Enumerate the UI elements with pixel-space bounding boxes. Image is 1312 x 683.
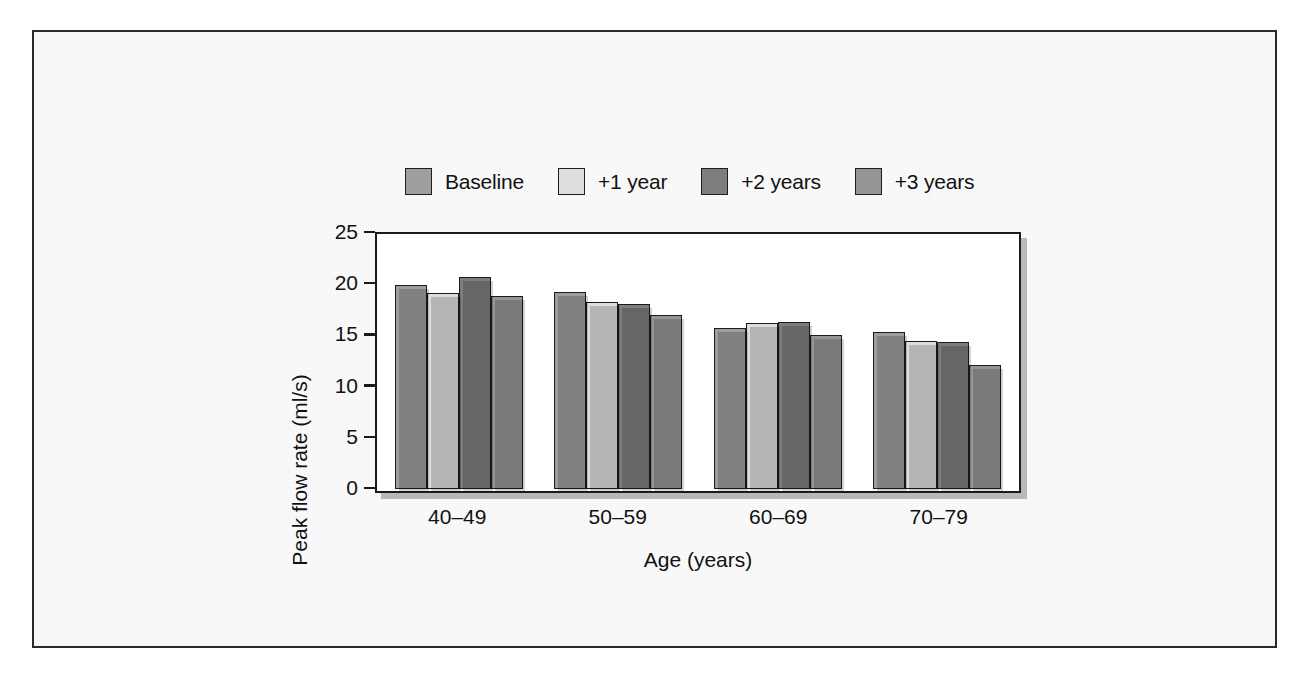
y-axis-tick-label: 0 <box>346 476 358 500</box>
y-axis-tick-label: 20 <box>335 271 358 295</box>
legend-item[interactable]: Baseline <box>405 168 524 195</box>
bar[interactable] <box>427 293 459 489</box>
plot-area <box>375 232 1021 493</box>
legend-swatch-icon <box>405 168 432 195</box>
y-axis-ticks: 0510152025 <box>313 222 375 503</box>
bar[interactable] <box>714 328 746 489</box>
y-axis-tick-mark <box>364 384 375 386</box>
x-axis-tick-labels: 40–4950–5960–6970–79 <box>377 505 1019 529</box>
bar[interactable] <box>618 304 650 488</box>
bar-wrap <box>969 237 1001 489</box>
y-axis-tick-label: 10 <box>335 374 358 398</box>
bars-layer <box>380 237 1017 489</box>
legend-swatch-icon <box>701 168 728 195</box>
y-axis-tick-mark <box>364 436 375 438</box>
x-axis-tick-label: 70–79 <box>910 505 968 529</box>
bar-wrap <box>650 237 682 489</box>
y-axis-tick-mark <box>364 487 375 489</box>
legend-label: Baseline <box>445 170 524 194</box>
bar-wrap <box>778 237 810 489</box>
bar-wrap <box>459 237 491 489</box>
bar[interactable] <box>650 315 682 488</box>
bar-wrap <box>810 237 842 489</box>
bar[interactable] <box>778 322 810 489</box>
bar-wrap <box>395 237 427 489</box>
plot-shell <box>375 232 1021 493</box>
bar[interactable] <box>810 335 842 489</box>
bar[interactable] <box>873 332 905 489</box>
y-axis-tick-label: 25 <box>335 220 358 244</box>
bar-group <box>554 237 682 489</box>
legend-swatch-icon <box>558 168 585 195</box>
y-axis-tick: 5 <box>346 427 375 447</box>
bar-group <box>714 237 842 489</box>
legend-swatch-icon <box>855 168 882 195</box>
figure-root: Baseline+1 year+2 years+3 years Peak flo… <box>0 0 1312 683</box>
bar[interactable] <box>395 285 427 489</box>
bar[interactable] <box>969 365 1001 489</box>
y-axis-tick: 0 <box>346 478 375 498</box>
bar[interactable] <box>491 296 523 489</box>
y-axis-title-holder: Peak flow rate (ml/s) <box>140 190 170 530</box>
bar-group <box>395 237 523 489</box>
bar[interactable] <box>459 277 491 489</box>
legend-label: +2 years <box>741 170 821 194</box>
bar-wrap <box>491 237 523 489</box>
y-axis-tick: 25 <box>335 222 375 242</box>
legend-item[interactable]: +2 years <box>701 168 821 195</box>
chart-legend: Baseline+1 year+2 years+3 years <box>405 168 974 195</box>
bar-wrap <box>586 237 618 489</box>
y-axis-tick-mark <box>364 282 375 284</box>
legend-label: +3 years <box>895 170 975 194</box>
y-axis-tick: 15 <box>335 324 375 344</box>
bar-wrap <box>905 237 937 489</box>
y-axis-tick-label: 15 <box>335 322 358 346</box>
bar-wrap <box>554 237 586 489</box>
bar-wrap <box>714 237 746 489</box>
bar[interactable] <box>554 292 586 489</box>
bar[interactable] <box>905 341 937 488</box>
y-axis-title: Peak flow rate (ml/s) <box>288 300 312 640</box>
bar-wrap <box>937 237 969 489</box>
legend-label: +1 year <box>598 170 667 194</box>
bar[interactable] <box>586 302 618 488</box>
x-axis-tick-label: 50–59 <box>589 505 647 529</box>
x-axis-tick-label: 40–49 <box>428 505 486 529</box>
bar-group <box>873 237 1001 489</box>
bar[interactable] <box>937 342 969 488</box>
y-axis-tick-mark <box>364 333 375 335</box>
y-axis-tick-mark <box>364 231 375 233</box>
y-axis-tick-label: 5 <box>346 425 358 449</box>
legend-item[interactable]: +1 year <box>558 168 667 195</box>
legend-item[interactable]: +3 years <box>855 168 975 195</box>
x-axis-tick-label: 60–69 <box>749 505 807 529</box>
bar-wrap <box>873 237 905 489</box>
bar[interactable] <box>746 323 778 489</box>
bar-wrap <box>746 237 778 489</box>
y-axis-tick: 10 <box>335 376 375 396</box>
y-axis-tick: 20 <box>335 273 375 293</box>
bar-wrap <box>618 237 650 489</box>
bar-wrap <box>427 237 459 489</box>
x-axis-title: Age (years) <box>377 548 1019 572</box>
